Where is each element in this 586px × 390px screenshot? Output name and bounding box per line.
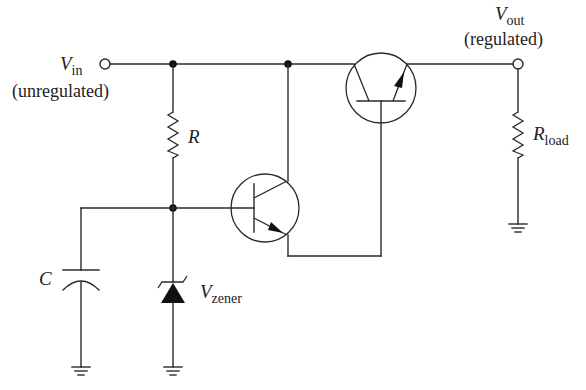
zener-diode xyxy=(158,276,187,367)
ground-zener-icon xyxy=(164,367,182,375)
vzener-label: Vzener xyxy=(200,281,242,306)
capacitor-wire xyxy=(81,208,173,367)
circuit-diagram: Vin (unregulated) Vout (regulated) R Rlo… xyxy=(0,0,586,390)
c-label: C xyxy=(39,268,52,289)
vin-label: Vin xyxy=(60,53,83,78)
resistor-load xyxy=(513,69,523,224)
vout-note: (regulated) xyxy=(464,29,543,50)
ground-load-icon xyxy=(509,224,527,232)
r-label: R xyxy=(187,126,200,147)
vout-label: Vout xyxy=(495,3,525,28)
ground-capacitor-icon xyxy=(72,367,90,375)
transistor-q1 xyxy=(173,64,381,256)
resistor-r xyxy=(168,64,178,282)
vin-terminal xyxy=(100,59,110,69)
vin-note: (unregulated) xyxy=(12,81,109,102)
vout-terminal xyxy=(513,59,523,69)
rload-label: Rload xyxy=(532,123,569,148)
